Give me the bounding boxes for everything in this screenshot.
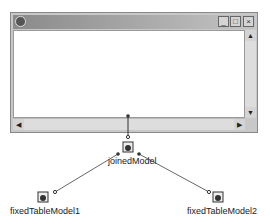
bean-icon[interactable]: [212, 191, 224, 203]
node-label-joined-model: joinedModel: [108, 156, 157, 166]
bean-icon[interactable]: [122, 141, 134, 153]
node-label-fixed-table-model-1: fixedTableModel1: [10, 206, 80, 216]
bean-icon[interactable]: [37, 191, 49, 203]
node-label-fixed-table-model-2: fixedTableModel2: [187, 206, 257, 216]
